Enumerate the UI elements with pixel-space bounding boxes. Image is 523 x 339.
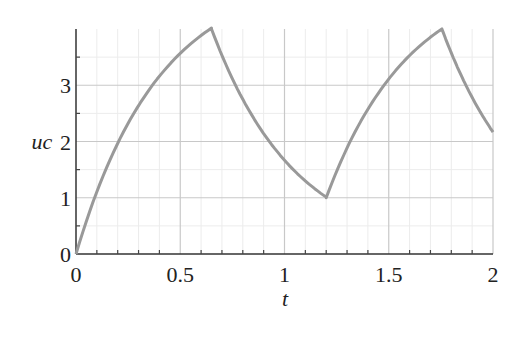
x-tick-labels: 00.511.52 [71, 262, 499, 287]
x-tick-label: 1 [279, 262, 290, 287]
y-tick-label: 2 [60, 130, 71, 155]
y-tick-label: 1 [60, 186, 71, 211]
x-tick-label: 1.5 [375, 262, 403, 287]
x-tick-label: 0.5 [167, 262, 195, 287]
y-tick-label: 3 [60, 73, 71, 98]
tick-marks [76, 57, 472, 254]
line-chart: 00.511.52 0123 t uc [0, 0, 523, 339]
x-tick-label: 2 [488, 262, 499, 287]
y-tick-label: 0 [60, 242, 71, 267]
x-tick-label: 0 [71, 262, 82, 287]
x-axis-label: t [282, 286, 289, 311]
y-tick-labels: 0123 [60, 73, 71, 267]
y-axis-label: uc [32, 129, 53, 154]
